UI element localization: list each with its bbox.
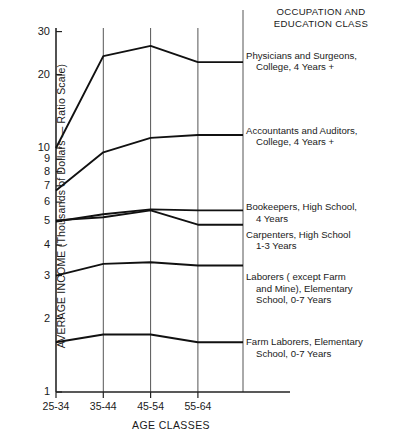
y-axis-title: AVERAGE INCOME (Thousands of Dollars — R… <box>55 41 67 371</box>
series-label-5: Farm Laborers, ElementarySchool, 0-7 Yea… <box>246 336 396 359</box>
series-label-1-line-1: Accountants and Auditors, <box>246 125 396 136</box>
series-label-5-line-1: Farm Laborers, Elementary <box>246 336 396 347</box>
series-label-1: Accountants and Auditors,College, 4 Year… <box>246 125 396 148</box>
y-tick-label-1: 1 <box>24 385 50 397</box>
series-line-0 <box>56 46 243 148</box>
series-label-4-line-3: School, 0-7 Years <box>246 294 396 305</box>
series-label-3-line-1: Carpenters, High School <box>246 229 396 240</box>
legend-title-line-2: EDUCATION CLASS <box>246 18 396 30</box>
x-tick-label-45-54: 45-54 <box>127 400 175 412</box>
series-line-4 <box>56 262 243 275</box>
series-label-4-line-1: Laborers ( except Farm <box>246 271 396 282</box>
series-label-0: Physicians and Surgeons,College, 4 Years… <box>246 50 396 73</box>
y-tick-label-8: 8 <box>24 165 50 177</box>
y-tick-label-20: 20 <box>24 68 50 80</box>
y-tick-label-6: 6 <box>24 195 50 207</box>
x-tick-label-35-44: 35-44 <box>79 400 127 412</box>
data-series-lines <box>56 46 243 342</box>
x-tick-label-25-34: 25-34 <box>32 400 80 412</box>
y-tick-label-7: 7 <box>24 179 50 191</box>
series-label-2: Bookeepers, High School,4 Years <box>246 201 396 224</box>
series-label-3-line-2: 1-3 Years <box>246 240 396 251</box>
series-label-4: Laborers ( except Farmand Mine), Element… <box>246 271 396 305</box>
x-axis-title: AGE CLASSES <box>96 419 246 431</box>
series-label-0-line-1: Physicians and Surgeons, <box>246 50 396 61</box>
y-tick-label-9: 9 <box>24 152 50 164</box>
y-tick-label-2: 2 <box>24 312 50 324</box>
series-label-0-line-2: College, 4 Years + <box>246 61 396 72</box>
y-tick-label-4: 4 <box>24 238 50 250</box>
series-label-3: Carpenters, High School1-3 Years <box>246 229 396 252</box>
series-label-4-line-2: and Mine), Elementary <box>246 283 396 294</box>
series-label-2-line-1: Bookeepers, High School, <box>246 201 396 212</box>
legend-title: OCCUPATION AND EDUCATION CLASS <box>246 6 396 29</box>
series-label-5-line-2: School, 0-7 Years <box>246 348 396 359</box>
x-axis-ticks <box>56 392 198 398</box>
series-label-1-line-2: College, 4 Years + <box>246 136 396 147</box>
series-line-5 <box>56 335 243 343</box>
series-line-1 <box>56 135 243 190</box>
series-label-2-line-2: 4 Years <box>246 213 396 224</box>
x-tick-label-55-64: 55-64 <box>174 400 222 412</box>
legend-title-line-1: OCCUPATION AND <box>246 6 396 18</box>
y-tick-label-3: 3 <box>24 269 50 281</box>
income-by-age-line-chart: AVERAGE INCOME (Thousands of Dollars — R… <box>0 0 396 442</box>
y-tick-label-5: 5 <box>24 214 50 226</box>
y-tick-label-30: 30 <box>24 25 50 37</box>
